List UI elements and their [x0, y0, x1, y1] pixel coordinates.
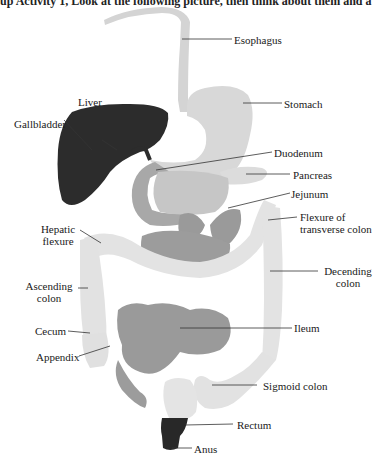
label-jejunum: Jejunum: [291, 188, 328, 200]
label-ascending-colon: Ascending colon: [20, 280, 78, 304]
label-duodenum: Duodenum: [274, 147, 323, 159]
liver-shape: [58, 104, 169, 205]
label-gallbladder: Gallbladder: [14, 118, 66, 130]
label-rectum: Rectum: [237, 419, 271, 431]
label-descending-line1: Decending: [318, 265, 378, 277]
label-flexure-line2: transverse colon: [300, 223, 372, 235]
stomach-shape: [150, 86, 253, 179]
label-appendix: Appendix: [36, 351, 79, 363]
ileum-shape: [117, 303, 231, 373]
label-ileum: Ileum: [294, 322, 320, 334]
label-descending-line2: colon: [318, 277, 378, 289]
label-stomach: Stomach: [284, 98, 323, 110]
label-ascending-line1: Ascending: [20, 280, 78, 292]
label-sigmoid-colon: Sigmoid colon: [263, 380, 327, 392]
lower-colon: [163, 378, 197, 420]
cecum-shape: [82, 332, 109, 368]
label-pancreas: Pancreas: [293, 169, 332, 181]
label-flexure-line1: Flexure of: [300, 211, 372, 223]
label-cecum: Cecum: [35, 325, 66, 337]
label-descending-colon: Decending colon: [318, 265, 378, 289]
descending-colon: [262, 205, 283, 362]
label-liver: Liver: [78, 96, 102, 108]
label-ascending-line2: colon: [20, 292, 78, 304]
label-hepatic-flexure: Hepatic flexure: [38, 223, 78, 247]
rectum-shape: [161, 418, 188, 450]
label-esophagus: Esophagus: [234, 34, 282, 46]
esophagus-shape: [104, 7, 190, 112]
duodenum-fill: [153, 171, 228, 215]
label-hepatic-line1: Hepatic: [38, 223, 78, 235]
label-anus: Anus: [194, 443, 217, 455]
label-hepatic-line2: flexure: [38, 235, 78, 247]
label-flexure-transverse-colon: Flexure of transverse colon: [300, 211, 372, 235]
